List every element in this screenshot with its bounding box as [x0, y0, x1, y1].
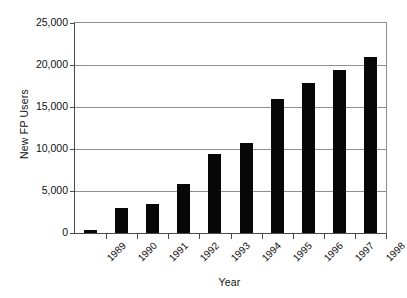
x-axis-tick-label: 1997	[353, 240, 377, 264]
x-axis-tick-label: 1992	[197, 240, 221, 264]
x-axis-tick-label: 1995	[291, 240, 315, 264]
x-axis-title: Year	[74, 276, 385, 288]
x-axis-tick-label: 1991	[166, 240, 190, 264]
x-axis-tick-label: 1998	[384, 240, 407, 264]
x-axis-tick-label: 1993	[228, 240, 252, 264]
x-axis-tick-label: 1996	[322, 240, 346, 264]
x-axis-tick-label: 1990	[135, 240, 159, 264]
x-axis-tick-label: 1989	[104, 240, 128, 264]
x-axis-tick-label: 1994	[260, 240, 284, 264]
